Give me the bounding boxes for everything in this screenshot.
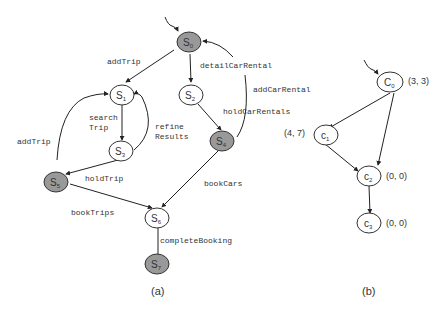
caption-a: (a) xyxy=(151,285,164,297)
label-refine: refine xyxy=(155,122,184,131)
node-s7: S7 xyxy=(145,254,169,274)
value-c0: (3, 3) xyxy=(408,76,429,86)
label-completebooking: completeBooking xyxy=(160,236,232,245)
label-trip: Trip xyxy=(89,123,108,132)
label-holdcarrentals: holdCarRentals xyxy=(223,107,290,116)
node-c3: c3 xyxy=(357,213,381,233)
node-s0: S0 xyxy=(177,32,201,52)
node-c2: c2 xyxy=(357,166,381,186)
node-s6: S6 xyxy=(145,208,169,228)
value-c3: (0, 0) xyxy=(386,218,407,228)
label-addtrip-left: addTrip xyxy=(17,137,51,146)
node-s5: S5 xyxy=(44,172,68,192)
label-bookcars: bookCars xyxy=(204,179,243,188)
node-c0: C0 xyxy=(377,72,403,92)
label-results: Results xyxy=(155,132,189,141)
label-holdtrip: holdTrip xyxy=(85,174,124,183)
diagram-figure: S0 S1 S2 S3 S4 S5 S6 S7 addTrip detailCa… xyxy=(0,0,446,311)
caption-b: (b) xyxy=(362,285,375,297)
node-c1: c1 xyxy=(314,125,338,145)
label-booktrips: bookTrips xyxy=(71,208,114,217)
label-addcarrental: addCarRental xyxy=(253,85,311,94)
node-s4: S4 xyxy=(210,131,234,151)
label-addtrip-top: addTrip xyxy=(107,57,141,66)
value-c1: (4, 7) xyxy=(284,128,305,138)
node-s3: S3 xyxy=(109,141,133,161)
label-search: search xyxy=(89,113,118,122)
label-detailcarrental: detailCarRental xyxy=(200,61,272,70)
node-s1: S1 xyxy=(110,85,134,105)
value-c2: (0, 0) xyxy=(386,171,407,181)
node-s2: S2 xyxy=(179,85,203,105)
